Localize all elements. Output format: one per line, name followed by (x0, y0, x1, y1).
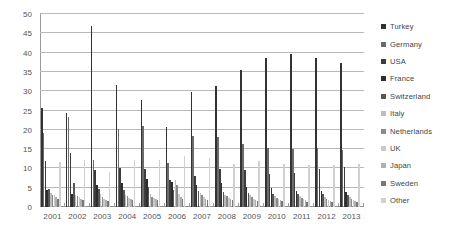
x-tick-mark (363, 203, 364, 207)
x-tick-label-2006: 2006 (165, 212, 190, 221)
x-tick-label-2001: 2001 (40, 212, 65, 221)
plot-area (40, 14, 364, 207)
x-tick-label-2002: 2002 (65, 212, 90, 221)
bar-group-2013 (339, 14, 364, 207)
y-tick-label: 25 (23, 106, 32, 115)
x-tick-label-2013: 2013 (339, 212, 364, 221)
legend-label: Netherlands (390, 127, 432, 136)
legend-item-germany[interactable]: Germany (381, 35, 456, 52)
bar-group-2003 (90, 14, 115, 207)
x-tick-label-2007: 2007 (190, 212, 215, 221)
bar-other-2005[interactable] (159, 160, 161, 207)
bar-group-2008 (214, 14, 239, 207)
bar-group-2007 (190, 14, 215, 207)
y-axis-tick-labels: 50454035302520151050 (0, 14, 36, 207)
x-tick-label-2011: 2011 (289, 212, 314, 221)
legend-label: Italy (390, 109, 404, 118)
x-tick-label-2010: 2010 (264, 212, 289, 221)
bar-other-2008[interactable] (233, 164, 235, 207)
y-tick-label: 10 (23, 164, 32, 173)
bar-group-2001 (40, 14, 65, 207)
bar-other-2004[interactable] (134, 160, 136, 207)
legend-item-france[interactable]: France (381, 70, 456, 87)
bars-layer (40, 14, 364, 207)
y-tick-label: 30 (23, 87, 32, 96)
legend-label: Other (390, 196, 410, 205)
bar-group-2006 (165, 14, 190, 207)
legend-item-italy[interactable]: Italy (381, 105, 456, 122)
legend-swatch-icon (381, 163, 386, 168)
legend-item-switzerland[interactable]: Switzerland (381, 88, 456, 105)
bar-group-2010 (264, 14, 289, 207)
x-tick-label-2009: 2009 (239, 212, 264, 221)
legend-item-uk[interactable]: UK (381, 140, 456, 157)
bar-group-2009 (239, 14, 264, 207)
legend-swatch-icon (381, 76, 386, 81)
legend-swatch-icon (381, 24, 386, 29)
legend-swatch-icon (381, 198, 386, 203)
legend-item-turkey[interactable]: Turkey (381, 18, 456, 35)
bar-group-2005 (140, 14, 165, 207)
y-tick-label: 20 (23, 125, 32, 134)
x-tick-label-2005: 2005 (140, 212, 165, 221)
legend-item-other[interactable]: Other (381, 192, 456, 209)
legend-swatch-icon (381, 111, 386, 116)
x-tick-label-2008: 2008 (214, 212, 239, 221)
legend-label: France (390, 74, 414, 83)
legend-item-usa[interactable]: USA (381, 53, 456, 70)
bar-other-2010[interactable] (283, 164, 285, 207)
bar-chart: 50454035302520151050 2001200220032004200… (0, 0, 456, 247)
y-tick-label: 0 (27, 203, 32, 212)
legend-label: Germany (390, 40, 422, 49)
bar-group-2004 (115, 14, 140, 207)
x-tick-label-2012: 2012 (314, 212, 339, 221)
x-tick-label-2004: 2004 (115, 212, 140, 221)
bar-other-2003[interactable] (109, 172, 111, 208)
legend-label: Japan (390, 161, 411, 170)
legend-item-netherlands[interactable]: Netherlands (381, 122, 456, 139)
bar-other-2013[interactable] (358, 164, 360, 207)
y-tick-label: 50 (23, 10, 32, 19)
legend-label: Sweden (390, 179, 418, 188)
legend-swatch-icon (381, 94, 386, 99)
legend-label: USA (390, 57, 406, 66)
bar-other-2001[interactable] (59, 162, 61, 207)
legend-label: UK (390, 144, 401, 153)
legend: TurkeyGermanyUSAFranceSwitzerlandItalyNe… (381, 18, 456, 209)
legend-label: Switzerland (390, 92, 430, 101)
y-tick-label: 35 (23, 67, 32, 76)
x-axis-tick-labels: 2001200220032004200520062007200820092010… (40, 212, 364, 221)
legend-swatch-icon (381, 59, 386, 64)
legend-swatch-icon (381, 129, 386, 134)
y-tick-label: 40 (23, 48, 32, 57)
x-tick-label-2003: 2003 (90, 212, 115, 221)
bar-group-2002 (65, 14, 90, 207)
legend-swatch-icon (381, 146, 386, 151)
bar-other-2011[interactable] (308, 165, 310, 207)
bar-group-2011 (289, 14, 314, 207)
y-tick-label: 45 (23, 29, 32, 38)
y-tick-label: 15 (23, 145, 32, 154)
bar-other-2002[interactable] (84, 160, 86, 207)
legend-label: Turkey (390, 22, 414, 31)
legend-swatch-icon (381, 42, 386, 47)
bar-other-2009[interactable] (258, 161, 260, 207)
y-tick-label: 5 (27, 183, 32, 192)
bar-group-2012 (314, 14, 339, 207)
legend-item-sweden[interactable]: Sweden (381, 175, 456, 192)
bar-other-2007[interactable] (209, 158, 211, 207)
bar-other-2012[interactable] (333, 165, 335, 207)
legend-swatch-icon (381, 181, 386, 186)
legend-item-japan[interactable]: Japan (381, 157, 456, 174)
bar-other-2006[interactable] (184, 156, 186, 207)
